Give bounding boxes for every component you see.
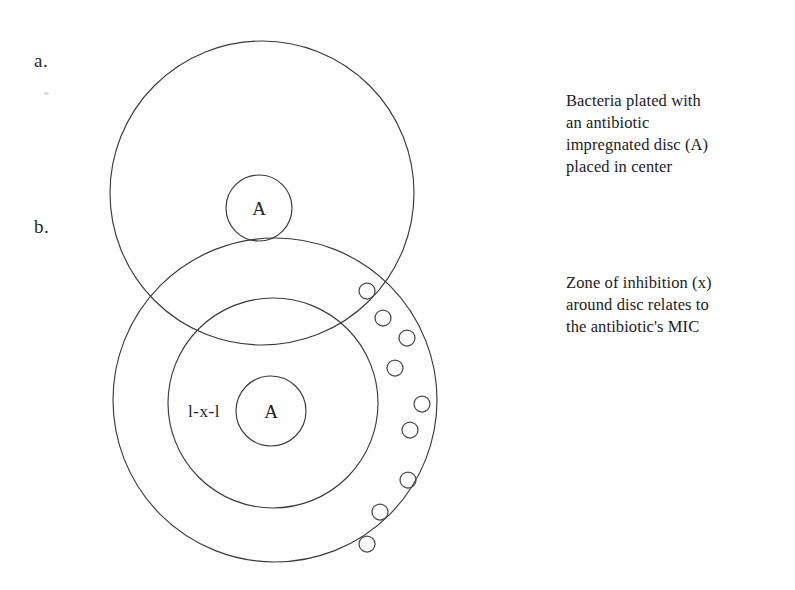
bacterial-colony: [372, 504, 388, 520]
figure-page: A A l-x-l a. b. Bacteria plated with an …: [0, 0, 795, 590]
bacterial-colony: [400, 472, 416, 488]
panel-label-a: a.: [34, 50, 48, 72]
bacterial-colony: [414, 396, 430, 412]
bacterial-colony: [359, 536, 375, 552]
bacterial-colony: [387, 360, 403, 376]
disc-a-label: A: [252, 198, 266, 219]
bacterial-colony: [359, 283, 375, 299]
zone-measure-label: l-x-l: [188, 402, 220, 421]
bacterial-colony: [402, 422, 418, 438]
bacterial-colony: [375, 310, 391, 326]
panel-label-b: b.: [34, 216, 49, 238]
scan-speck: [44, 92, 49, 95]
bacterial-colony: [399, 330, 415, 346]
caption-bottom: Zone of inhibition (x) around disc relat…: [566, 272, 786, 338]
caption-top: Bacteria plated with an antibiotic impre…: [566, 90, 786, 178]
disc-b-label: A: [264, 401, 278, 422]
bacterial-colony-group: [359, 283, 430, 552]
